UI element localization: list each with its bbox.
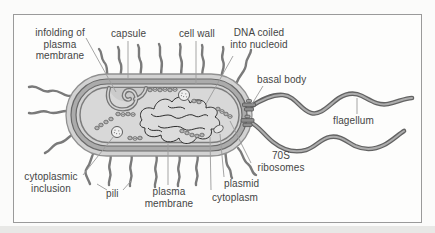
bacterial-cell-figure: infolding of plasma membrane capsule cel…	[0, 0, 435, 233]
label-capsule: capsule	[111, 28, 146, 40]
label-plasma-membrane: plasma membrane	[135, 186, 203, 209]
label-cytoplasm: cytoplasm	[212, 192, 258, 204]
label-line: membrane	[22, 50, 98, 62]
label-cell-wall: cell wall	[179, 28, 215, 40]
label-plasmid: plasmid	[224, 178, 259, 190]
label-line: membrane	[135, 198, 203, 210]
label-line: plasma	[135, 186, 203, 198]
label-line: inclusion	[16, 183, 86, 195]
label-flagellum: flagellum	[333, 115, 374, 127]
label-infolding-of-plasma-membrane: infolding of plasma membrane	[22, 27, 98, 62]
scan-shadow	[0, 226, 435, 233]
label-line: DNA coiled	[219, 27, 299, 39]
label-dna-coiled-into-nucleoid: DNA coiled into nucleoid	[219, 27, 299, 50]
label-line: into nucleoid	[219, 39, 299, 51]
label-line: 70S	[252, 150, 310, 162]
label-basal-body: basal body	[257, 74, 306, 86]
label-cytoplasmic-inclusion: cytoplasmic inclusion	[16, 171, 86, 194]
label-line: infolding of	[22, 27, 98, 39]
label-pili: pili	[106, 188, 119, 200]
label-line: ribosomes	[252, 162, 310, 174]
label-70s-ribosomes: 70S ribosomes	[252, 150, 310, 173]
label-line: cytoplasmic	[16, 171, 86, 183]
label-line: plasma	[22, 39, 98, 51]
